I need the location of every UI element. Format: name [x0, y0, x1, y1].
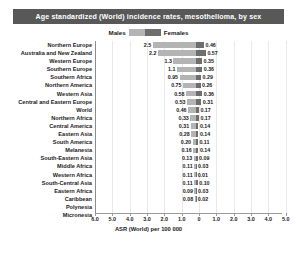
female-bar: [196, 164, 197, 170]
female-bar: [196, 139, 198, 145]
male-value-label: 0.75: [171, 81, 181, 89]
bar-zone: 2.20.57: [96, 49, 296, 57]
chart-legend: Males Females: [0, 29, 297, 36]
male-value-label: 0.08: [183, 195, 193, 203]
female-bar: [196, 50, 206, 56]
female-value-label: 0.14: [200, 122, 210, 130]
male-value-label: 0.11: [183, 171, 193, 179]
male-bar: [158, 50, 196, 56]
male-bar: [153, 42, 196, 48]
x-tick-label: 4.0: [126, 216, 134, 222]
female-value-label: 0.29: [203, 73, 213, 81]
male-bar: [180, 75, 196, 81]
chart-title-bar: Age standardized (World) incidence rates…: [13, 9, 284, 24]
bar-zone: 0.200.11: [96, 138, 296, 146]
x-tick-label: 0: [198, 216, 201, 222]
plot-area: Northern Europe2.50.46Australia and New …: [0, 41, 297, 213]
bar-zone: 1.10.36: [96, 65, 296, 73]
x-tick-label: 3.0: [247, 216, 255, 222]
female-bar: [196, 42, 204, 48]
male-value-label: 0.09: [183, 187, 193, 195]
x-axis-title: ASR (World) per 100 000: [0, 226, 297, 232]
chart-page: Age standardized (World) incidence rates…: [0, 0, 297, 259]
chart-row: Western Asia0.580.36: [0, 90, 297, 98]
bar-zone: 0.580.36: [96, 90, 296, 98]
row-label: Western Africa: [0, 171, 96, 179]
female-bar: [196, 115, 199, 121]
male-value-label: 0.53: [175, 98, 185, 106]
male-value-label: 0.20: [181, 138, 191, 146]
chart-row: Northern Africa0.330.17: [0, 114, 297, 122]
female-value-label: 0.17: [200, 106, 210, 114]
female-bar: [196, 75, 201, 81]
female-bar: [196, 58, 202, 64]
x-tick-label: 6.0: [91, 216, 99, 222]
row-label: Middle Africa: [0, 162, 96, 170]
row-label: Southern Africa: [0, 73, 96, 81]
male-value-label: 0.13: [182, 154, 192, 162]
female-bar: [196, 83, 201, 89]
bar-zone: 0.330.17: [96, 114, 296, 122]
female-value-label: 0.09: [199, 154, 209, 162]
male-bar: [188, 107, 196, 113]
female-bar: [196, 148, 198, 154]
male-value-label: 2.5: [144, 41, 151, 49]
female-bar: [196, 67, 202, 73]
bar-zone: 0.080.02: [96, 195, 296, 203]
legend-swatch-males: [129, 29, 145, 36]
x-axis-line: [95, 213, 282, 214]
female-value-label: 0.26: [202, 81, 212, 89]
row-label: World: [0, 106, 96, 114]
chart-row: Caribbean0.080.02: [0, 195, 297, 203]
x-tick-label: 2.0: [230, 216, 238, 222]
legend-label-males: Males: [109, 29, 126, 36]
chart-row: South America0.200.11: [0, 138, 297, 146]
chart-row: Australia and New Zealand2.20.57: [0, 49, 297, 57]
bar-zone: 0.280.14: [96, 130, 296, 138]
female-bar: [196, 91, 202, 97]
legend-swatch-females: [145, 29, 161, 36]
chart-row: Western Europe1.30.35: [0, 57, 297, 65]
chart-row: Northern Europe2.50.46: [0, 41, 297, 49]
male-bar: [173, 58, 196, 64]
male-bar: [187, 99, 196, 105]
male-value-label: 0.28: [179, 130, 189, 138]
row-label: Australia and New Zealand: [0, 49, 96, 57]
bar-zone: 0.160.14: [96, 146, 296, 154]
bar-zone: 0.110.10: [96, 179, 296, 187]
male-bar: [183, 83, 196, 89]
row-label: Northern America: [0, 81, 96, 89]
bar-zone: 1.30.35: [96, 57, 296, 65]
female-value-label: 0.03: [198, 162, 208, 170]
bar-zone: 0.090.03: [96, 187, 296, 195]
page-title: Age standardized (World) incidence rates…: [36, 13, 262, 21]
bar-zone: 0.130.09: [96, 154, 296, 162]
female-value-label: 0.14: [200, 146, 210, 154]
row-label: Northern Europe: [0, 41, 96, 49]
row-label: Eastern Africa: [0, 187, 96, 195]
row-label: Western Europe: [0, 57, 96, 65]
x-tick-label: 3.0: [143, 216, 151, 222]
male-bar: [177, 67, 196, 73]
female-value-label: 0.36: [204, 65, 214, 73]
row-label: Central and Eastern Europe: [0, 98, 96, 106]
chart-row: Central and Eastern Europe0.530.31: [0, 98, 297, 106]
female-value-label: 0.46: [205, 41, 215, 49]
x-tick-label: 4.0: [265, 216, 273, 222]
male-value-label: 1.1: [168, 65, 175, 73]
female-value-label: 0.31: [203, 98, 213, 106]
female-value-label: 0.35: [204, 57, 214, 65]
row-label: Polynesia: [0, 203, 96, 211]
chart-row: World0.460.17: [0, 106, 297, 114]
bar-zone: 2.50.46: [96, 41, 296, 49]
female-value-label: 0.14: [200, 130, 210, 138]
male-value-label: 2.2: [149, 49, 156, 57]
bar-zone: [96, 203, 296, 211]
x-tick-label: 2.0: [161, 216, 169, 222]
chart-row: Central America0.310.14: [0, 122, 297, 130]
female-value-label: 0.03: [198, 187, 208, 195]
bar-zone: 0.110.03: [96, 162, 296, 170]
chart-row: South-Central Asia0.110.10: [0, 179, 297, 187]
chart-row: Eastern Asia0.280.14: [0, 130, 297, 138]
row-label: South-Eastern Asia: [0, 154, 96, 162]
